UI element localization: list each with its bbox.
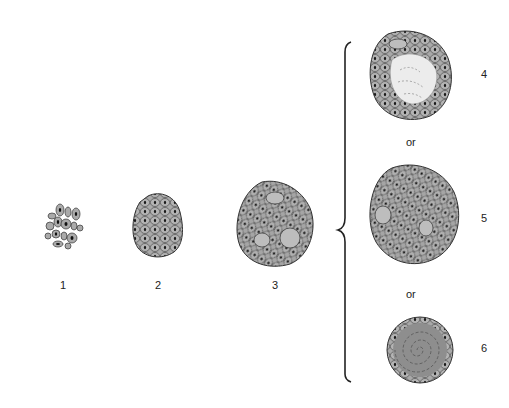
stage-2-label: 2 xyxy=(155,279,161,291)
diagram-canvas xyxy=(0,0,509,408)
brace xyxy=(338,42,351,382)
stage-5-label: 5 xyxy=(481,212,487,224)
stage-1-loose-cells xyxy=(45,204,83,249)
or-connector-2: or xyxy=(406,288,416,300)
stage-3-aggregate xyxy=(237,181,313,266)
stage-2-aggregate xyxy=(133,194,183,257)
stage-1-label: 1 xyxy=(60,279,66,291)
stage-5-aggregate xyxy=(370,165,459,264)
stage-3-label: 3 xyxy=(272,279,278,291)
stage-4-label: 4 xyxy=(481,68,487,80)
stage-4-necrotic-aggregate xyxy=(370,31,451,119)
stage-6-fibrotic-aggregate xyxy=(387,317,453,383)
or-connector-1: or xyxy=(406,136,416,148)
stage-6-label: 6 xyxy=(481,342,487,354)
